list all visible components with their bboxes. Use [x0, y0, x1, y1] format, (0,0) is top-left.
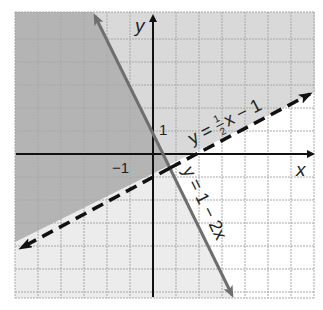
y-axis-label: y: [133, 15, 146, 36]
x-axis-label: x: [295, 159, 307, 180]
tick-label-y-1: 1: [159, 121, 167, 138]
inequality-graph: y x 1 −1 y = 1 2 x − 1 y = 1 − 2x: [0, 0, 323, 310]
tick-label-x-neg1: −1: [112, 159, 129, 176]
